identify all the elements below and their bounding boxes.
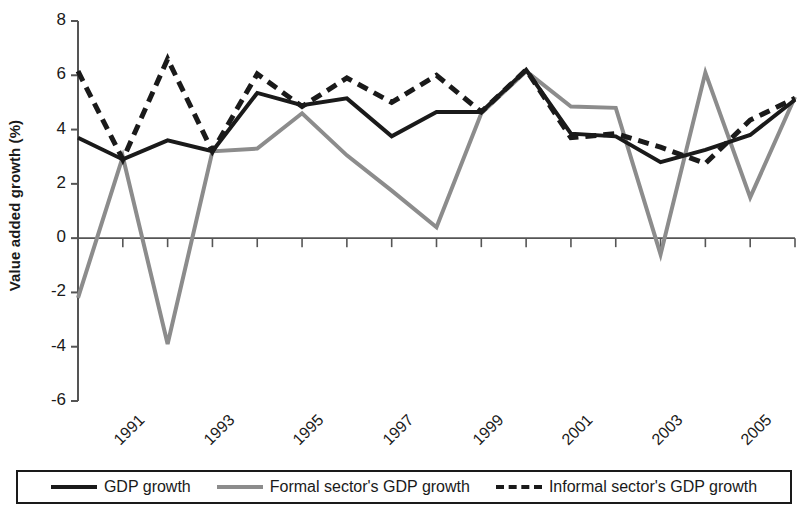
legend-label: Informal sector's GDP growth (549, 478, 757, 496)
series-group (78, 59, 795, 344)
legend-item-0: GDP growth (51, 478, 191, 496)
y-tick-label: -6 (32, 390, 66, 410)
y-tick-label: 2 (32, 173, 66, 193)
chart-legend: GDP growthFormal sector's GDP growthInfo… (16, 470, 792, 504)
y-tick-label: -4 (32, 336, 66, 356)
legend-item-2: Informal sector's GDP growth (496, 478, 757, 496)
legend-swatch-icon (51, 485, 97, 489)
line-chart-figure: Value added growth (%) 86420-2-4-6 19911… (0, 0, 808, 507)
legend-swatch-icon (496, 485, 542, 489)
axes-group (71, 21, 795, 401)
y-tick-label: 0 (32, 227, 66, 247)
legend-swatch-icon (217, 485, 263, 489)
legend-label: GDP growth (104, 478, 191, 496)
y-tick-label: -2 (32, 281, 66, 301)
y-tick-label: 8 (32, 10, 66, 30)
plot-area (0, 0, 808, 470)
legend-label: Formal sector's GDP growth (270, 478, 470, 496)
y-tick-label: 6 (32, 64, 66, 84)
y-tick-label: 4 (32, 119, 66, 139)
legend-item-1: Formal sector's GDP growth (217, 478, 470, 496)
